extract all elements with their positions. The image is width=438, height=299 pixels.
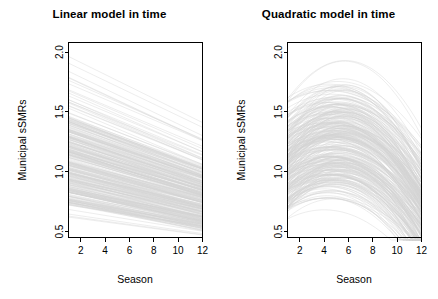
y-axis-title-quadratic: Municipal sSMRs [235, 99, 247, 180]
y-tick-label: 2.0 [54, 45, 65, 59]
y-axis-title-linear: Municipal sSMRs [16, 99, 28, 180]
x-tick-label: 12 [197, 245, 209, 256]
x-tick-label: 10 [392, 245, 404, 256]
x-tick-label: 2 [78, 245, 84, 256]
figure-root: Linear model in time 0.51.01.52.0 246810… [0, 0, 438, 299]
y-tick-label: 0.5 [273, 224, 284, 238]
x-tick-label: 8 [370, 245, 376, 256]
plot-svg-quadratic: 0.51.01.52.0 24681012 Season Municipal s… [219, 0, 438, 299]
x-tick-label: 2 [297, 245, 303, 256]
trajectory-line [69, 216, 203, 235]
trajectory-lines-linear [69, 56, 203, 235]
y-axis-linear: 0.51.01.52.0 [54, 43, 69, 239]
x-tick-label: 4 [102, 245, 108, 256]
y-tick-label: 1.5 [273, 104, 284, 118]
x-tick-label: 4 [321, 245, 327, 256]
x-tick-label: 12 [416, 245, 428, 256]
y-tick-label: 2.0 [273, 45, 284, 59]
x-tick-label: 6 [127, 245, 133, 256]
y-tick-label: 1.0 [54, 164, 65, 178]
x-axis-title-quadratic: Season [336, 273, 372, 285]
trajectory-lines-quadratic [288, 61, 422, 240]
panel-linear-model: Linear model in time 0.51.01.52.0 246810… [0, 0, 219, 299]
y-tick-label: 1.0 [273, 164, 284, 178]
plot-svg-linear: 0.51.01.52.0 24681012 Season Municipal s… [0, 0, 219, 299]
x-axis-title-linear: Season [117, 273, 153, 285]
x-tick-label: 10 [173, 245, 185, 256]
x-tick-label: 8 [151, 245, 157, 256]
panel-quadratic-model: Quadratic model in time 0.51.01.52.0 246… [219, 0, 438, 299]
x-tick-label: 6 [346, 245, 352, 256]
y-axis-quadratic: 0.51.01.52.0 [273, 43, 288, 239]
y-tick-label: 0.5 [54, 224, 65, 238]
y-tick-label: 1.5 [54, 104, 65, 118]
x-axis-linear: 24681012 [69, 238, 209, 256]
